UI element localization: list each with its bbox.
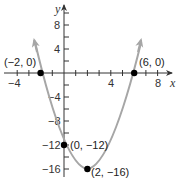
x-tick-label-4: 4: [108, 77, 114, 89]
point-x-intercept-right: [131, 70, 137, 76]
y-tick-label-neg16: −16: [42, 163, 61, 175]
x-tick-label-8: 8: [155, 77, 161, 89]
label-vertex: (2, −16): [91, 166, 129, 178]
x-tick-label-neg4: −4: [8, 77, 21, 89]
y-tick-label-4: 4: [54, 43, 60, 55]
parabola-graph: −4 4 8 8 4 −4 −8 −12 −16 x y (−2, 0) (6,…: [0, 0, 179, 180]
point-y-intercept: [61, 142, 67, 148]
label-y-intercept: (0, −12): [70, 139, 108, 151]
label-x-intercept-left: (−2, 0): [4, 56, 36, 68]
curve-arrow-left: [34, 40, 37, 52]
y-tick-label-8: 8: [54, 19, 60, 31]
y-axis-label: y: [54, 2, 61, 16]
point-vertex: [84, 166, 90, 172]
label-x-intercept-right: (6, 0): [139, 56, 165, 68]
point-x-intercept-left: [37, 70, 43, 76]
y-tick-label-neg12: −12: [42, 139, 61, 151]
x-axis-label: x: [169, 76, 176, 90]
